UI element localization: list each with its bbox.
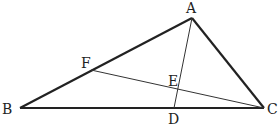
- label-a: A: [185, 0, 197, 16]
- triangle-diagram: A B C D E F: [0, 0, 278, 125]
- label-e: E: [168, 73, 178, 89]
- side-ab: [20, 18, 192, 108]
- triangle-abc: [20, 18, 264, 108]
- label-c: C: [267, 101, 278, 117]
- label-f: F: [81, 55, 91, 71]
- label-b: B: [2, 101, 12, 117]
- segment-ad: [174, 18, 192, 108]
- cevians: [91, 18, 264, 108]
- label-d: D: [168, 111, 179, 125]
